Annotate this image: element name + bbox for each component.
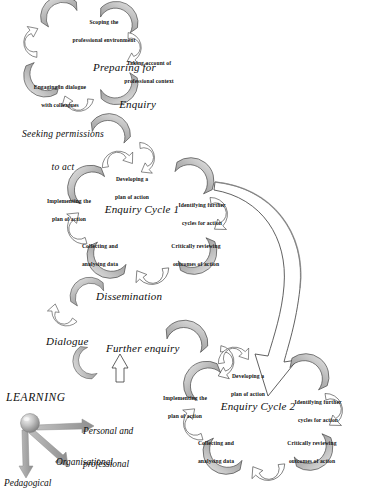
label-taking-account-context: Taking account of professional context — [111, 47, 187, 97]
dialogue-arrow-graphics — [68, 344, 98, 383]
learning-sphere — [21, 414, 40, 433]
enquiry-cycle-1-title: Enquiry Cycle 1 — [94, 203, 190, 215]
further-enquiry-label: Further enquiry — [106, 342, 180, 354]
c1-label-implementing-plan: Implementing the plan of action — [34, 185, 104, 235]
c2-label-collecting-data: Collecting and analysing data — [184, 427, 248, 477]
learning-outcome-personal: Personal and professional — [83, 404, 157, 493]
dialogue-label: Dialogue — [46, 335, 89, 347]
c1-label-collecting-data: Collecting and analysing data — [68, 230, 132, 280]
c2-label-critically-reviewing: Critically reviewing outcomes of action — [276, 427, 348, 477]
learning-arrow-pedagogical — [19, 430, 33, 478]
dissemination-label: Dissemination — [96, 290, 162, 302]
learning-outcome-pedagogical: Pedagogical — [4, 478, 51, 489]
enquiry-cycle-2-title: Enquiry Cycle 2 — [210, 400, 306, 412]
c1-label-critically-reviewing: Critically reviewing outcomes of action — [160, 230, 232, 280]
further-enquiry-up-arrow — [112, 354, 128, 382]
diagram-canvas: Scoping the professional environment Pre… — [0, 0, 366, 495]
learning-outcome-organisational: Organisational — [56, 457, 113, 468]
learning-heading: LEARNING — [6, 391, 66, 404]
c2-label-implementing-plan: Implementing the plan of action — [150, 382, 220, 432]
